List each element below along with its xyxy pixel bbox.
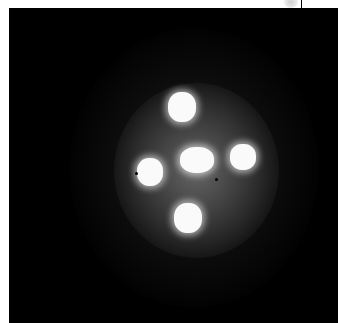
lensed-spot-center — [180, 147, 214, 173]
lensed-spot-left — [137, 158, 163, 186]
astronomical-image — [9, 8, 338, 323]
lensed-spot-right — [230, 144, 256, 170]
dark-speck — [135, 172, 138, 175]
dark-speck — [215, 178, 218, 181]
lensed-spot-top — [168, 92, 196, 122]
lensed-spot-bottom — [174, 203, 202, 233]
top-edge-artifact — [284, 0, 298, 8]
top-edge-line — [301, 0, 302, 8]
